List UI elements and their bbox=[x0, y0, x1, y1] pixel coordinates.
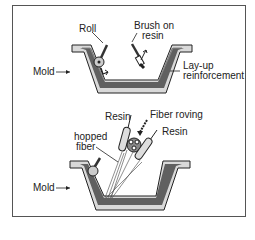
roll-label: Roll bbox=[79, 24, 96, 34]
brush-label-line2: resin bbox=[142, 31, 164, 41]
brush-leader-line bbox=[132, 33, 137, 42]
roller-icon bbox=[88, 158, 100, 176]
fiber-roving-label: Fiber roving bbox=[150, 110, 203, 120]
mold-label-bottom: Mold bbox=[33, 183, 55, 193]
resin-right-label: Resin bbox=[162, 127, 188, 137]
resin-left-label: Resin bbox=[105, 112, 131, 122]
top-mold bbox=[72, 45, 192, 93]
layup-label-line2: reinforcement bbox=[183, 71, 244, 81]
chopped-fiber-label-line2: fiber bbox=[76, 142, 95, 152]
brush-tool-icon bbox=[132, 44, 147, 68]
mold-label-top: Mold bbox=[33, 67, 55, 77]
bottom-mold bbox=[70, 161, 190, 210]
